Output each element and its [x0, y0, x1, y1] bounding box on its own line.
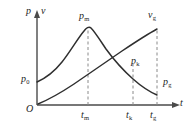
y-axis-label-velocity: v	[41, 6, 45, 16]
label-muzzle-pressure-sub: g	[168, 81, 172, 88]
label-max-pressure-sub: m	[84, 15, 89, 22]
origin-label: O	[26, 104, 33, 114]
label-initial-pressure-sub: 0	[26, 78, 30, 85]
tick-label-time-burnout: tk	[126, 110, 132, 120]
tick-label-time-max-pressure: tm	[81, 110, 89, 120]
pressure-velocity-time-figure: p v t O p0 pm vg pk pg tm tk tg	[0, 0, 189, 130]
label-muzzle-velocity: vg	[148, 10, 156, 20]
x-axis-arrowhead	[172, 102, 180, 108]
y-axis-arrowhead	[34, 10, 40, 18]
label-muzzle-velocity-sub: g	[152, 14, 156, 21]
tick-label-tg-sub: g	[153, 114, 157, 121]
label-burnout-pressure: pk	[131, 56, 140, 66]
tick-label-time-muzzle: tg	[150, 110, 156, 120]
label-initial-pressure: p0	[21, 74, 30, 84]
tick-label-tk-sub: k	[129, 114, 133, 121]
label-max-pressure: pm	[79, 11, 89, 21]
x-axis-label-time: t	[180, 98, 183, 108]
label-burnout-pressure-sub: k	[136, 60, 140, 67]
tick-label-tm-sub: m	[84, 114, 89, 121]
label-muzzle-pressure: pg	[163, 77, 172, 87]
y-axis-label-pressure: p	[26, 6, 31, 16]
